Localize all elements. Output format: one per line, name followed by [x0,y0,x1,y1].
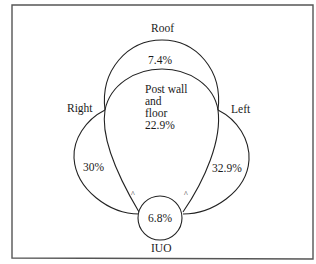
iuo-value: 6.8% [148,212,172,224]
diagram-canvas: ^ ^ Roof 7.4% Post wall and floor 22.9% … [0,0,316,264]
caret-mark-left: ^ [131,190,135,199]
post-wall-floor-label-line2: and [145,95,162,107]
post-wall-floor-label-line1: Post wall [145,83,188,95]
iuo-label: IUO [151,242,171,254]
right-label: Right [67,102,93,115]
left-label: Left [231,103,251,115]
left-value: 32.9% [212,162,242,174]
caret-mark-right: ^ [184,190,188,199]
post-wall-floor-value: 22.9% [145,119,175,131]
roof-value: 7.4% [148,54,172,66]
roof-label: Roof [151,22,174,34]
post-wall-floor-label-line3: floor [145,107,168,119]
right-value: 30% [83,161,105,173]
